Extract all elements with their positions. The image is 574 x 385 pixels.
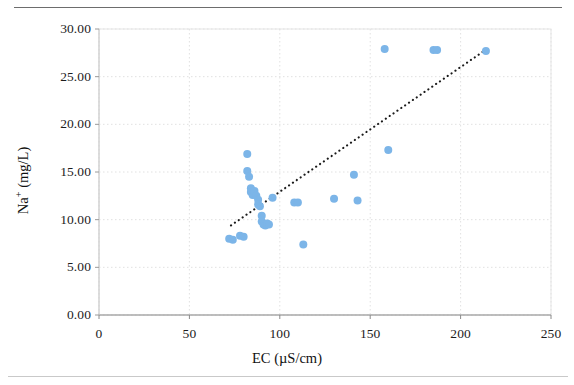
data-point: [256, 202, 264, 210]
data-point: [243, 150, 251, 158]
data-point: [245, 173, 253, 181]
tick-marks: [95, 29, 551, 319]
y-tick-label: 25.00: [28, 69, 91, 85]
gridlines-group: [99, 29, 551, 315]
y-axis-title-suffix: (mg/L): [15, 147, 31, 192]
y-tick-label: 20.00: [28, 116, 91, 132]
data-point: [384, 146, 392, 154]
data-point: [299, 240, 307, 248]
data-point: [354, 197, 362, 205]
y-tick-label: 5.00: [28, 259, 91, 275]
data-point: [482, 47, 490, 55]
data-point: [294, 199, 302, 207]
x-axis-title: EC (µS/cm): [0, 350, 574, 367]
y-axis-title: Na+ (mg/L): [15, 96, 32, 266]
x-tick-label: 0: [96, 326, 103, 342]
x-tick-label: 100: [270, 326, 291, 342]
x-tick-label: 50: [183, 326, 197, 342]
data-point: [269, 194, 277, 202]
data-points-group: [225, 45, 490, 248]
data-point: [265, 220, 273, 228]
data-point: [240, 233, 248, 241]
x-tick-label: 250: [541, 326, 562, 342]
data-point: [330, 195, 338, 203]
y-axis-title-superscript: +: [13, 191, 24, 197]
data-point: [433, 46, 441, 54]
x-tick-label: 200: [450, 326, 471, 342]
y-tick-label: 10.00: [28, 212, 91, 228]
data-point: [381, 45, 389, 53]
figure-container: 0.005.0010.0015.0020.0025.0030.00 050100…: [0, 0, 574, 385]
x-tick-label: 150: [360, 326, 381, 342]
y-axis-title-prefix: Na: [15, 197, 31, 214]
y-tick-label: 0.00: [28, 307, 91, 323]
y-tick-label: 30.00: [28, 21, 91, 37]
data-point: [350, 171, 358, 179]
y-tick-label: 15.00: [28, 164, 91, 180]
data-point: [229, 236, 237, 244]
